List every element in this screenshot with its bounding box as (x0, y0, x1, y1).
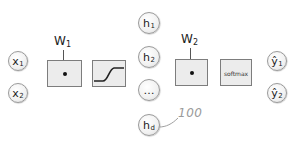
annotation-connector (0, 0, 300, 143)
weight-label-w2: W2 (181, 32, 198, 46)
output-node-y2: ŷ2 (267, 83, 287, 103)
dot-product-icon (190, 71, 194, 75)
softmax-box: softmax (220, 59, 252, 86)
dot-product-box-2 (175, 59, 208, 86)
hidden-size-annotation: 100 (178, 106, 202, 120)
weight-stem-w2 (190, 48, 191, 59)
softmax-label: softmax (221, 69, 251, 76)
output-node-y1: ŷ1 (267, 51, 287, 71)
